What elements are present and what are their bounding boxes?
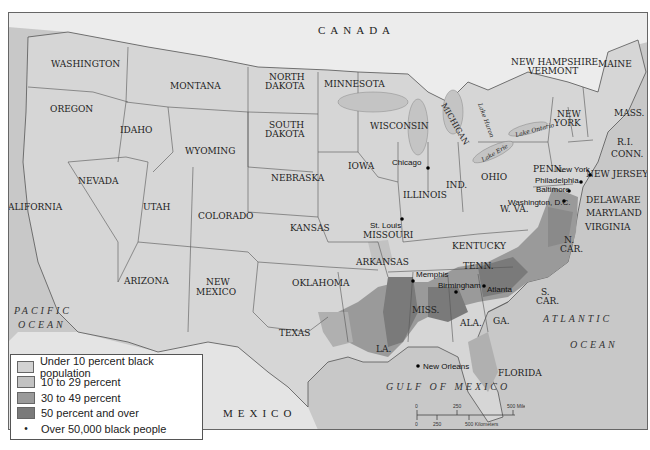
label-new-hampshire: NEW HAMPSHIRE bbox=[511, 57, 598, 67]
label-canada: CANADA bbox=[318, 24, 395, 36]
label-indiana: IND. bbox=[446, 180, 467, 190]
city-baltimore: Baltimore bbox=[536, 185, 571, 194]
swatch-under-10 bbox=[17, 361, 34, 373]
label-atlantic-ocean: OCEAN bbox=[570, 339, 618, 350]
label-new-mexico-2: MEXICO bbox=[196, 287, 236, 297]
label-florida: FLORIDA bbox=[498, 368, 542, 378]
label-minnesota: MINNESOTA bbox=[324, 79, 385, 89]
label-virginia: VIRGINIA bbox=[584, 222, 631, 232]
legend-label: Under 10 percent black population bbox=[40, 355, 196, 379]
scale-km-0: 0 bbox=[415, 421, 418, 427]
scale-miles-0: 0 bbox=[415, 403, 418, 409]
scale-miles-250: 250 bbox=[453, 403, 462, 409]
label-montana: MONTANA bbox=[170, 81, 221, 91]
label-south-dakota-2: DAKOTA bbox=[265, 129, 305, 139]
label-utah: UTAH bbox=[143, 202, 171, 212]
label-vermont: VERMONT bbox=[527, 66, 578, 76]
label-pacific-ocean: OCEAN bbox=[18, 319, 66, 330]
label-kentucky: KENTUCKY bbox=[452, 241, 507, 251]
svg-text:Atlanta: Atlanta bbox=[487, 285, 512, 294]
city-washington-dc: Washington, D.C. bbox=[508, 198, 570, 207]
label-gulf-of-mexico: GULF OF MEXICO bbox=[386, 381, 510, 392]
label-rhode-island: R.I. bbox=[617, 137, 633, 147]
swatch-50-plus bbox=[17, 407, 35, 419]
legend-label: 10 to 29 percent bbox=[41, 376, 121, 388]
label-pacific: PACIFIC bbox=[13, 305, 72, 316]
label-texas: TEXAS bbox=[279, 328, 310, 338]
label-oklahoma: OKLAHOMA bbox=[292, 278, 350, 288]
city-atlanta: Atlanta bbox=[482, 284, 512, 294]
legend-label: Over 50,000 black people bbox=[41, 423, 166, 435]
label-new-mexico-1: NEW bbox=[206, 277, 230, 287]
label-new-jersey: NEW JERSEY bbox=[586, 169, 648, 179]
label-colorado: COLORADO bbox=[198, 211, 254, 221]
label-mexico: MEXICO bbox=[223, 407, 296, 419]
legend-item-50-plus: 50 percent and over bbox=[17, 406, 196, 422]
label-iowa: IOWA bbox=[348, 161, 375, 171]
svg-text:Philadelphia: Philadelphia bbox=[535, 176, 579, 185]
label-kansas: KANSAS bbox=[290, 223, 330, 233]
label-arizona: ARIZONA bbox=[123, 276, 169, 286]
label-maryland: MARYLAND bbox=[586, 208, 642, 218]
svg-text:Washington, D.C.: Washington, D.C. bbox=[508, 198, 570, 207]
label-massachusetts: MASS. bbox=[614, 108, 645, 118]
scale-miles-500: 500 Miles bbox=[507, 403, 525, 409]
svg-text:St. Louis: St. Louis bbox=[370, 221, 401, 230]
label-washington: WASHINGTON bbox=[51, 59, 120, 69]
label-wisconsin: WISCONSIN bbox=[370, 121, 429, 131]
city-philadelphia: Philadelphia bbox=[535, 176, 583, 185]
legend-item-30-49: 30 to 49 percent bbox=[17, 390, 196, 406]
legend-item-city-dot: • Over 50,000 black people bbox=[17, 421, 196, 437]
legend-label: 30 to 49 percent bbox=[41, 392, 121, 404]
legend-label: 50 percent and over bbox=[41, 407, 139, 419]
label-south-carolina-2: CAR. bbox=[536, 296, 559, 306]
legend-item-under-10: Under 10 percent black population bbox=[17, 359, 196, 375]
label-nebraska: NEBRASKA bbox=[271, 173, 325, 183]
city-new-orleans: New Orleans bbox=[416, 362, 469, 371]
svg-text:Birmingham: Birmingham bbox=[438, 281, 481, 290]
svg-text:New Orleans: New Orleans bbox=[423, 362, 469, 371]
svg-text:New York: New York bbox=[556, 165, 591, 174]
label-idaho: IDAHO bbox=[120, 125, 153, 135]
label-california: CALIFORNIA bbox=[8, 202, 63, 212]
label-delaware: DELAWARE bbox=[586, 195, 641, 205]
svg-text:Memphis: Memphis bbox=[416, 270, 448, 279]
label-north-dakota-2: DAKOTA bbox=[265, 81, 305, 91]
label-new-york-2: YORK bbox=[553, 118, 581, 128]
svg-text:Chicago: Chicago bbox=[392, 158, 422, 167]
swatch-30-49 bbox=[17, 392, 35, 404]
map-legend: Under 10 percent black population 10 to … bbox=[10, 354, 203, 440]
scale-km-500: 500 Kilometers bbox=[465, 421, 499, 427]
label-alabama: ALA. bbox=[459, 318, 482, 328]
label-arkansas: ARKANSAS bbox=[355, 257, 409, 267]
svg-text:Baltimore: Baltimore bbox=[536, 185, 570, 194]
label-tennessee: TENN. bbox=[463, 261, 494, 271]
label-mississippi: MISS. bbox=[412, 305, 440, 315]
label-north-carolina-2: CAR. bbox=[560, 244, 583, 254]
label-illinois: ILLINOIS bbox=[403, 190, 447, 200]
label-missouri: MISSOURI bbox=[363, 230, 414, 240]
label-oregon: OREGON bbox=[50, 104, 93, 114]
label-nevada: NEVADA bbox=[78, 176, 119, 186]
swatch-10-29 bbox=[17, 376, 35, 388]
label-wyoming: WYOMING bbox=[185, 146, 235, 156]
label-ohio: OHIO bbox=[481, 172, 507, 182]
label-georgia: GA. bbox=[493, 316, 510, 326]
label-maine: MAINE bbox=[598, 59, 632, 69]
scale-bar: 0 250 500 Miles 0 250 500 Kilometers bbox=[415, 402, 525, 428]
scale-km-250: 250 bbox=[433, 421, 442, 427]
label-connecticut: CONN. bbox=[611, 149, 643, 159]
label-atlantic: ATLANTIC bbox=[542, 313, 612, 324]
label-louisiana: LA. bbox=[376, 344, 391, 354]
city-dot-icon: • bbox=[17, 424, 35, 434]
